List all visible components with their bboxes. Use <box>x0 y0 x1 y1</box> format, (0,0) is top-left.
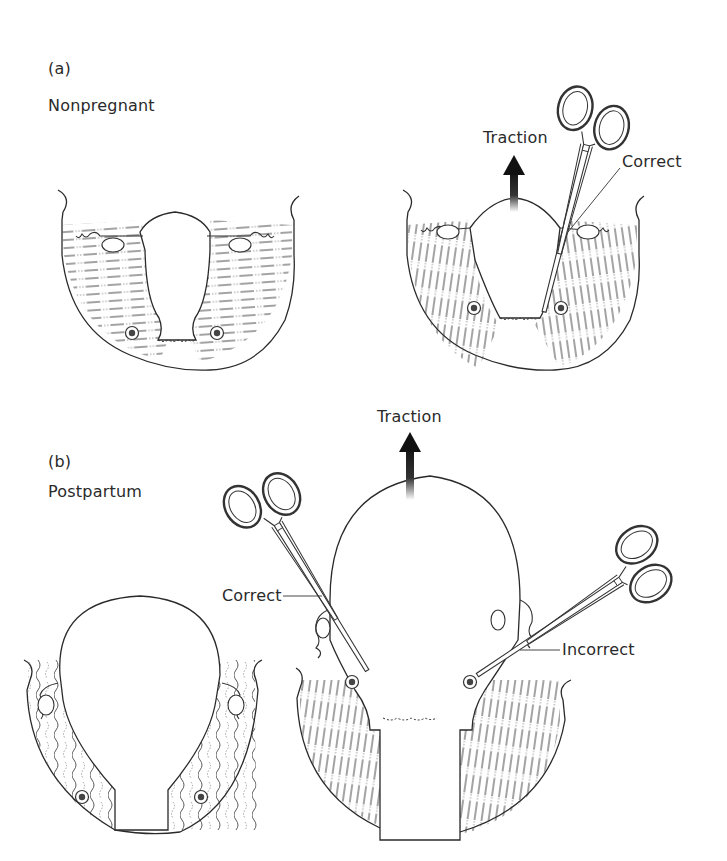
panel-b-title: Postpartum <box>48 482 142 501</box>
panel-b-correct-label: Correct <box>222 586 282 605</box>
panel-b-incorrect-label: Incorrect <box>562 640 635 659</box>
illustration-canvas <box>0 0 727 861</box>
panel-a-traction-label: Traction <box>483 128 548 147</box>
panel-b-letter: (b) <box>48 452 71 471</box>
postpartum-uterus-diagram <box>24 596 262 834</box>
nonpregnant-uterus-diagram <box>58 190 299 370</box>
panel-b-traction-label: Traction <box>377 407 442 426</box>
postpartum-uterus-with-clamps-diagram <box>216 432 687 840</box>
panel-a-correct-label: Correct <box>622 152 682 171</box>
panel-a-letter: (a) <box>48 59 71 78</box>
panel-a-title: Nonpregnant <box>48 96 155 115</box>
nonpregnant-uterus-with-clamp-diagram <box>403 83 644 370</box>
